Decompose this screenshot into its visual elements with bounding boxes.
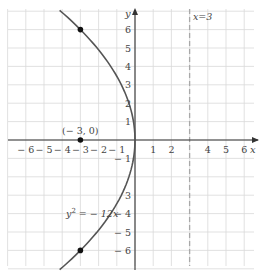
x-tick-label: − 4 [54, 144, 71, 155]
x-tick-label: − 5 [35, 144, 52, 155]
focus-label: (− 3, 0) [62, 125, 99, 136]
x-tick-label: 2 [168, 144, 174, 155]
y-tick-label: 5 [125, 43, 131, 54]
x-tick-label: 4 [205, 144, 211, 155]
x-tick-label: − 3 [72, 144, 89, 155]
x-tick-labels: − 6− 5− 4− 3− 2− 112456 [17, 144, 247, 155]
x-axis-label: x [250, 144, 256, 155]
y-axis-label: y [124, 8, 131, 19]
equation-label: y2 = − 12x [65, 207, 119, 219]
x-tick-label: − 6 [17, 144, 34, 155]
y-tick-label: 1 [125, 116, 131, 127]
x-axis-arrow-icon [252, 137, 259, 143]
y-tick-label: 3 [125, 79, 131, 90]
equation-rest: = − 12x [76, 208, 119, 219]
y-tick-label: 2 [125, 98, 131, 109]
directrix-label: x=3 [193, 11, 212, 22]
x-tick-label: 1 [150, 144, 156, 155]
y-tick-label: − 1 [114, 153, 131, 164]
point-marker [78, 248, 84, 254]
y-tick-label: 3 [125, 190, 131, 201]
x-tick-label: − 2 [90, 144, 107, 155]
point-marker [78, 27, 84, 33]
y-tick-label: 6 [125, 24, 131, 35]
parabola-chart: − 6− 5− 4− 3− 2− 112456 654321− 13− 4− 5… [0, 0, 265, 276]
x-tick-label: 5 [223, 144, 229, 155]
y-tick-label: 4 [125, 61, 131, 72]
point-marker [78, 137, 84, 143]
y-tick-label: − 5 [114, 227, 131, 238]
y-tick-label: − 6 [114, 245, 131, 256]
x-tick-label: 6 [241, 144, 247, 155]
